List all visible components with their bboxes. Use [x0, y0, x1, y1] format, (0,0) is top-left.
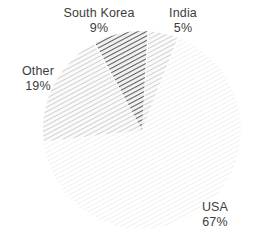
- pie-label-india-value: 5%: [152, 21, 214, 36]
- pie-label-other-value: 19%: [6, 79, 70, 94]
- pie-label-usa: USA 67%: [186, 200, 244, 230]
- pie-label-india: India 5%: [152, 6, 214, 36]
- pie-label-south-korea-value: 9%: [47, 21, 151, 36]
- pie-label-usa-name: USA: [186, 200, 244, 215]
- pie-label-usa-value: 67%: [186, 215, 244, 230]
- pie-label-other-name: Other: [6, 64, 70, 79]
- pie-label-south-korea: South Korea 9%: [47, 6, 151, 36]
- pie-label-south-korea-name: South Korea: [47, 6, 151, 21]
- pie-label-india-name: India: [152, 6, 214, 21]
- pie-label-other: Other 19%: [6, 64, 70, 94]
- pie-chart: South Korea 9% India 5% Other 19% USA 67…: [0, 0, 258, 249]
